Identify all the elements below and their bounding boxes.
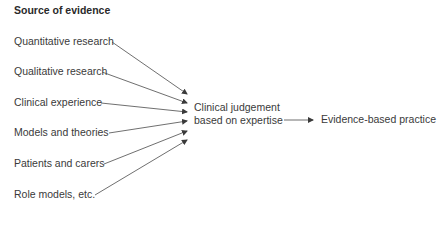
arrow-qualitative (102, 72, 187, 103)
arrow-models-theories (109, 121, 187, 133)
arrow-role-models (95, 140, 187, 195)
clinical-judgement-node: Clinical judgement based on expertise (194, 101, 283, 126)
arrow-clinical-experience (101, 103, 187, 112)
evidence-based-practice-node: Evidence-based practice (321, 113, 436, 125)
arrow-quantitative (112, 42, 187, 94)
center-line-1: Clinical judgement (194, 101, 283, 114)
center-line-2: based on expertise (194, 114, 283, 127)
